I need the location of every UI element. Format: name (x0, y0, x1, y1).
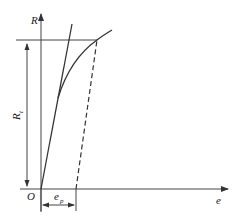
r-axis-label: R (30, 14, 38, 26)
svg-text:e: e (54, 190, 59, 202)
e-axis-label: e (216, 194, 221, 206)
svg-text:t: t (17, 110, 25, 113)
rt-label: R t (10, 110, 25, 121)
svg-text:R: R (10, 113, 22, 121)
stress-strain-diagram: R e O R t e p (0, 0, 238, 219)
svg-text:p: p (59, 197, 64, 205)
offset-dashed-line (76, 40, 97, 189)
ep-label: e p (54, 190, 64, 205)
origin-label: O (27, 190, 35, 202)
elastic-line (41, 24, 72, 189)
